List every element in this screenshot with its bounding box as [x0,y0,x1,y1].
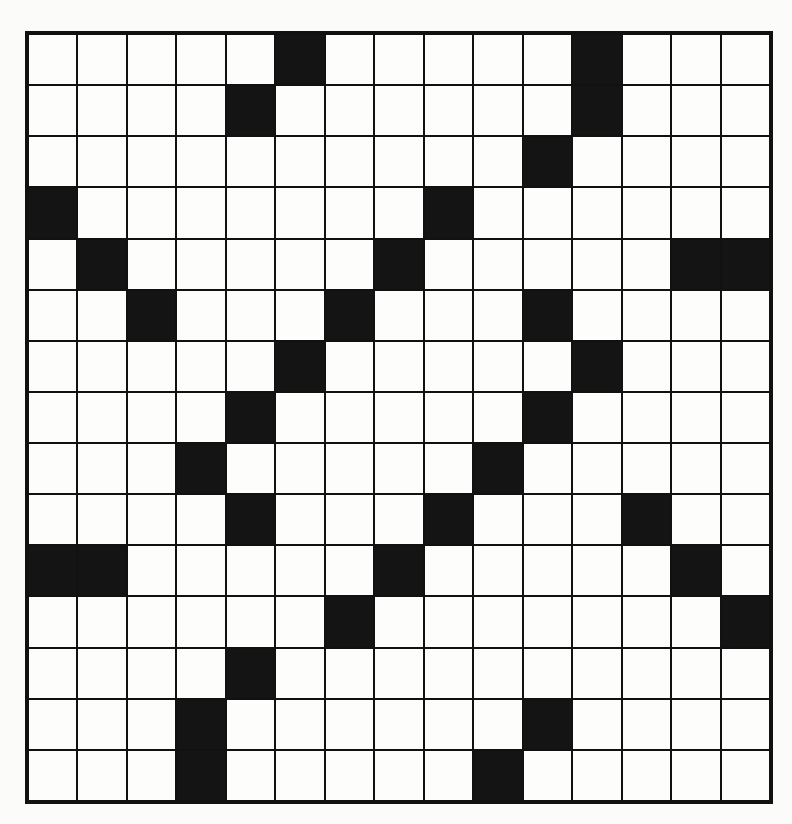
grid-cell[interactable] [276,137,323,186]
grid-cell[interactable] [722,495,769,544]
grid-cell[interactable] [128,188,175,237]
grid-cell[interactable] [78,35,125,84]
grid-cell[interactable] [78,291,125,340]
grid-cell[interactable] [474,342,521,391]
grid-cell[interactable] [227,291,274,340]
grid-cell[interactable] [177,597,224,646]
grid-cell[interactable] [78,137,125,186]
grid-cell[interactable] [375,342,422,391]
grid-cell[interactable] [326,444,373,493]
grid-cell[interactable] [425,700,472,749]
grid-cell[interactable] [276,240,323,289]
grid-cell[interactable] [375,495,422,544]
grid-cell[interactable] [722,393,769,442]
grid-cell[interactable] [128,700,175,749]
grid-cell[interactable] [573,495,620,544]
grid-cell[interactable] [474,649,521,698]
grid-cell[interactable] [78,393,125,442]
grid-cell[interactable] [326,342,373,391]
grid-cell[interactable] [524,444,571,493]
grid-cell[interactable] [524,35,571,84]
grid-cell[interactable] [29,86,76,135]
grid-cell[interactable] [672,495,719,544]
grid-cell[interactable] [276,597,323,646]
grid-cell[interactable] [623,649,670,698]
grid-cell[interactable] [128,86,175,135]
grid-cell[interactable] [623,86,670,135]
grid-cell[interactable] [722,86,769,135]
grid-cell[interactable] [177,495,224,544]
grid-cell[interactable] [276,700,323,749]
grid-cell[interactable] [474,495,521,544]
grid-cell[interactable] [78,751,125,800]
grid-cell[interactable] [326,546,373,595]
grid-cell[interactable] [128,546,175,595]
grid-cell[interactable] [128,751,175,800]
grid-cell[interactable] [623,291,670,340]
grid-cell[interactable] [326,751,373,800]
grid-cell[interactable] [524,240,571,289]
grid-cell[interactable] [78,649,125,698]
grid-cell[interactable] [573,597,620,646]
grid-cell[interactable] [227,35,274,84]
grid-cell[interactable] [722,751,769,800]
grid-cell[interactable] [29,751,76,800]
grid-cell[interactable] [78,86,125,135]
grid-cell[interactable] [227,700,274,749]
grid-cell[interactable] [623,137,670,186]
grid-cell[interactable] [29,240,76,289]
grid-cell[interactable] [177,649,224,698]
grid-cell[interactable] [672,444,719,493]
grid-cell[interactable] [722,291,769,340]
grid-cell[interactable] [128,597,175,646]
grid-cell[interactable] [326,188,373,237]
grid-cell[interactable] [474,700,521,749]
grid-cell[interactable] [375,291,422,340]
grid-cell[interactable] [425,546,472,595]
grid-cell[interactable] [425,444,472,493]
grid-cell[interactable] [375,137,422,186]
grid-cell[interactable] [722,649,769,698]
grid-cell[interactable] [375,444,422,493]
grid-cell[interactable] [474,546,521,595]
grid-cell[interactable] [722,35,769,84]
grid-cell[interactable] [573,751,620,800]
grid-cell[interactable] [78,444,125,493]
grid-cell[interactable] [177,137,224,186]
grid-cell[interactable] [29,35,76,84]
grid-cell[interactable] [177,86,224,135]
grid-cell[interactable] [227,546,274,595]
grid-cell[interactable] [474,393,521,442]
grid-cell[interactable] [722,188,769,237]
grid-cell[interactable] [177,188,224,237]
grid-cell[interactable] [672,342,719,391]
grid-cell[interactable] [623,35,670,84]
grid-cell[interactable] [29,137,76,186]
grid-cell[interactable] [474,137,521,186]
grid-cell[interactable] [276,649,323,698]
grid-cell[interactable] [375,188,422,237]
grid-cell[interactable] [474,35,521,84]
grid-cell[interactable] [524,188,571,237]
grid-cell[interactable] [425,86,472,135]
grid-cell[interactable] [573,546,620,595]
grid-cell[interactable] [128,393,175,442]
grid-cell[interactable] [623,240,670,289]
grid-cell[interactable] [276,495,323,544]
grid-cell[interactable] [227,137,274,186]
grid-cell[interactable] [78,597,125,646]
grid-cell[interactable] [29,700,76,749]
grid-cell[interactable] [524,342,571,391]
grid-cell[interactable] [128,342,175,391]
grid-cell[interactable] [29,393,76,442]
grid-cell[interactable] [623,188,670,237]
grid-cell[interactable] [524,86,571,135]
grid-cell[interactable] [573,137,620,186]
grid-cell[interactable] [326,393,373,442]
grid-cell[interactable] [326,137,373,186]
grid-cell[interactable] [425,649,472,698]
grid-cell[interactable] [425,35,472,84]
grid-cell[interactable] [524,495,571,544]
grid-cell[interactable] [573,188,620,237]
grid-cell[interactable] [276,188,323,237]
